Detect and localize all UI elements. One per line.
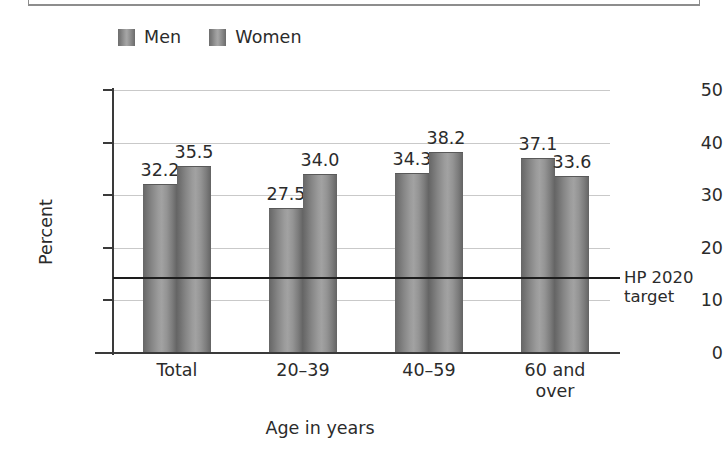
bar-value-label-women-2: 38.2 xyxy=(416,128,476,148)
gridline-50 xyxy=(113,90,610,91)
reference-line-hp2020 xyxy=(113,277,620,279)
bar-men-2 xyxy=(395,173,429,353)
y-tick-10 xyxy=(103,299,114,301)
y-axis-title: Percent xyxy=(36,182,56,282)
bar-men-0 xyxy=(143,184,177,353)
y-tick-label-20: 20 xyxy=(635,238,723,258)
y-tick-30 xyxy=(103,194,114,196)
y-tick-40 xyxy=(103,142,114,144)
category-label-1: 20–39 xyxy=(233,360,373,381)
bar-value-label-men-3: 37.1 xyxy=(508,134,568,154)
bar-value-label-women-3: 33.6 xyxy=(542,152,602,172)
bar-men-1 xyxy=(269,208,303,353)
bar-men-3 xyxy=(521,158,555,353)
y-tick-label-0: 0 xyxy=(635,343,723,363)
y-tick-label-40: 40 xyxy=(635,133,723,153)
category-label-2: 40–59 xyxy=(359,360,499,381)
bar-value-label-women-1: 34.0 xyxy=(290,150,350,170)
bar-women-3 xyxy=(555,176,589,353)
bar-women-2 xyxy=(429,152,463,353)
x-axis-title: Age in years xyxy=(0,418,640,438)
chart-plot-area: 01020304050 Percent 32.235.527.534.034.3… xyxy=(0,0,723,455)
bar-women-1 xyxy=(303,174,337,353)
reference-line-label: HP 2020 target xyxy=(624,268,694,306)
y-tick-label-50: 50 xyxy=(635,80,723,100)
x-axis-line xyxy=(95,352,620,354)
y-tick-50 xyxy=(103,89,114,91)
y-tick-label-30: 30 xyxy=(635,185,723,205)
category-label-3: 60 and over xyxy=(485,360,625,402)
bar-women-0 xyxy=(177,166,211,353)
category-label-0: Total xyxy=(107,360,247,381)
bar-value-label-women-0: 35.5 xyxy=(164,142,224,162)
y-tick-20 xyxy=(103,247,114,249)
y-axis-line xyxy=(112,88,114,355)
